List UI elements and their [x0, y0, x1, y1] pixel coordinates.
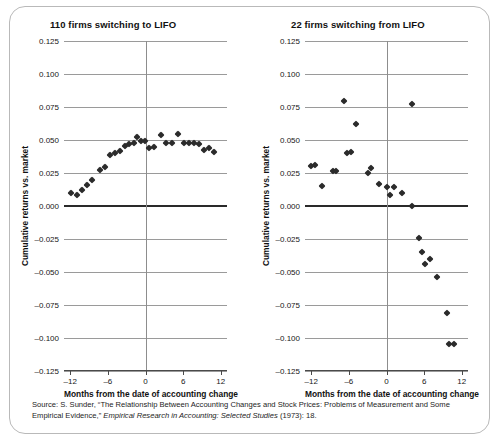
y-tick-label: –0.075: [276, 301, 300, 310]
x-tick-label: 12: [457, 377, 466, 386]
y-tick-label: 0.025: [280, 169, 300, 178]
y-tick-label: 0.100: [39, 70, 59, 79]
data-point-marker: [368, 164, 375, 171]
data-point-marker: [157, 132, 164, 139]
y-tick-label: –0.025: [276, 235, 300, 244]
panel-title-right: 22 firms switching from LIFO: [291, 19, 425, 30]
x-tick-mark: [221, 371, 222, 375]
chart-panel-left: 110 firms switching to LIFO Cumulative r…: [10, 7, 250, 387]
data-point-marker: [443, 310, 450, 317]
data-point-marker: [398, 189, 405, 196]
y-tick-label: –0.075: [35, 301, 59, 310]
x-tick-label: –12: [64, 377, 77, 386]
y-tick-label: 0.125: [39, 37, 59, 46]
plot-area-right: 0.1250.1000.0750.0500.0250.000–0.025–0.0…: [305, 41, 468, 371]
x-tick-mark: [311, 371, 312, 375]
x-axis-title-right: Months from the date of accounting chang…: [305, 389, 468, 399]
x-tick-label: –6: [344, 377, 353, 386]
data-point-marker: [141, 138, 148, 145]
y-axis-title-right: Cumulative returns vs. market: [259, 41, 273, 371]
y-tick-label: 0.050: [39, 136, 59, 145]
source-note: Source: S. Sunder, “The Relationship Bet…: [32, 399, 472, 422]
x-tick-mark: [349, 371, 350, 375]
data-point-marker: [211, 148, 218, 155]
y-tick-label: 0.050: [280, 136, 300, 145]
x-tick-mark: [108, 371, 109, 375]
data-point-marker: [416, 235, 423, 242]
source-italic-title: Empirical Research in Accounting: Select…: [103, 411, 277, 420]
y-tick-label: 0.125: [280, 37, 300, 46]
plot-area-left: 0.1250.1000.0750.0500.0250.000–0.025–0.0…: [64, 41, 227, 371]
y-axis-title-left-text: Cumulative returns vs. market: [20, 146, 30, 266]
data-point-marker: [318, 183, 325, 190]
x-tick-mark: [424, 371, 425, 375]
data-point-marker: [383, 184, 390, 191]
x-tick-mark: [462, 371, 463, 375]
data-point-marker: [390, 184, 397, 191]
y-tick-label: 0.075: [280, 103, 300, 112]
chart-panel-right: 22 firms switching from LIFO Cumulative …: [251, 7, 491, 387]
zero-line-vertical: [387, 41, 388, 371]
x-tick-label: –6: [103, 377, 112, 386]
data-point-marker: [375, 181, 382, 188]
y-axis-title-left: Cumulative returns vs. market: [18, 41, 32, 371]
x-tick-label: 0: [143, 377, 147, 386]
x-tick-label: 12: [216, 377, 225, 386]
data-point-marker: [451, 340, 458, 347]
x-tick-mark: [146, 371, 147, 375]
y-tick-label: –0.050: [35, 268, 59, 277]
data-point-marker: [433, 273, 440, 280]
y-tick-label: 0.000: [39, 202, 59, 211]
y-tick-label: 0.025: [39, 169, 59, 178]
panel-title-left: 110 firms switching to LIFO: [50, 19, 176, 30]
data-point-marker: [340, 98, 347, 105]
data-point-marker: [117, 148, 124, 155]
data-point-marker: [88, 176, 95, 183]
data-point-marker: [196, 140, 203, 147]
x-tick-mark: [387, 371, 388, 375]
x-tick-label: 0: [384, 377, 388, 386]
x-tick-mark: [70, 371, 71, 375]
x-axis-title-left: Months from the date of accounting chang…: [64, 389, 227, 399]
figure-card: 110 firms switching to LIFO Cumulative r…: [9, 6, 490, 434]
x-tick-label: –12: [305, 377, 318, 386]
y-axis-title-right-text: Cumulative returns vs. market: [261, 146, 271, 266]
y-tick-label: –0.100: [35, 334, 59, 343]
data-point-marker: [353, 120, 360, 127]
y-tick-label: –0.100: [276, 334, 300, 343]
source-suffix: (1973): 18.: [278, 411, 317, 420]
x-tick-label: 6: [422, 377, 426, 386]
y-tick-label: 0.100: [280, 70, 300, 79]
data-point-marker: [175, 131, 182, 138]
y-tick-label: 0.075: [39, 103, 59, 112]
data-point-marker: [150, 144, 157, 151]
x-tick-label: 6: [181, 377, 185, 386]
chart-panels: 110 firms switching to LIFO Cumulative r…: [10, 7, 491, 387]
y-tick-label: –0.025: [35, 235, 59, 244]
data-point-marker: [421, 260, 428, 267]
y-tick-label: –0.125: [276, 367, 300, 376]
y-tick-label: –0.125: [35, 367, 59, 376]
y-tick-label: –0.050: [276, 268, 300, 277]
x-tick-mark: [183, 371, 184, 375]
y-tick-label: 0.000: [280, 202, 300, 211]
data-point-marker: [73, 192, 80, 199]
data-point-marker: [408, 202, 415, 209]
data-point-marker: [418, 249, 425, 256]
zero-line-vertical: [146, 41, 147, 371]
